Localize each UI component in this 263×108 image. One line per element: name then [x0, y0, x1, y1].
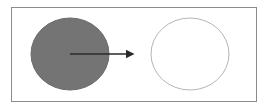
diagram-canvas	[0, 0, 263, 108]
outlined-circle	[151, 18, 229, 90]
